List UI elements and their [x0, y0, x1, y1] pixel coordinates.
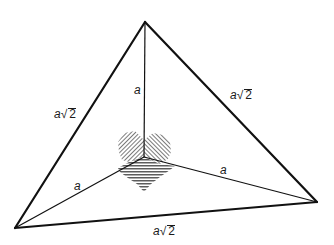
label-inner-right: a: [220, 164, 227, 176]
outer-triangle: [15, 22, 317, 228]
edge-top-left: [15, 22, 145, 228]
edge-center-right: [144, 157, 317, 202]
label-outer-bottom: a√2: [153, 225, 175, 237]
inner-edges: [15, 22, 317, 228]
right-angle-hatching: [118, 131, 175, 192]
edge-top-right: [145, 22, 317, 202]
edge-center-top: [144, 22, 145, 157]
label-outer-right: a√2: [230, 89, 252, 101]
label-inner-top: a: [134, 84, 141, 96]
label-inner-left: a: [74, 180, 81, 192]
label-outer-left: a√2: [54, 108, 76, 120]
hatch-left-face: [118, 131, 144, 162]
tetrahedron-diagram: [0, 0, 334, 245]
